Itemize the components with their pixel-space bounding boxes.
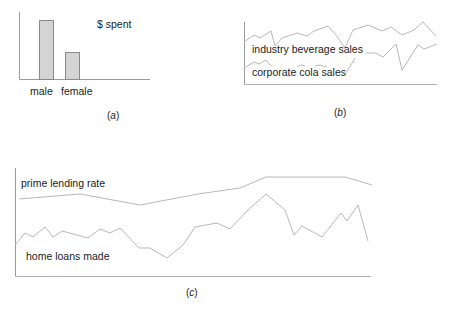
- chart-b-caption: (b): [334, 108, 346, 118]
- chart-c-caption: (c): [186, 288, 198, 298]
- bar-female: [66, 53, 80, 80]
- bar-male: [40, 21, 54, 80]
- home-loans-made-label: home loans made: [26, 251, 109, 262]
- chart-a-title: $ spent: [97, 19, 131, 30]
- industry-beverage-sales-label: industry beverage sales: [252, 44, 363, 55]
- corporate-cola-sales-line-4: [346, 58, 355, 73]
- home-loans-made-line: [15, 194, 368, 258]
- figure-canvas: [0, 0, 454, 312]
- prime-lending-rate-label: prime lending rate: [21, 178, 105, 189]
- category-label-male: male: [30, 86, 53, 97]
- corporate-cola-sales-label: corporate cola sales: [252, 67, 346, 78]
- category-label-female: female: [61, 86, 93, 97]
- chart-a-caption: (a): [107, 111, 119, 121]
- corporate-cola-sales-line-5: [366, 44, 437, 70]
